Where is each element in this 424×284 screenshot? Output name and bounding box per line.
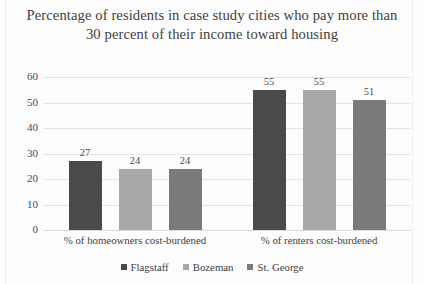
bar-value-label: 24	[180, 155, 191, 166]
bar-value-label: 24	[130, 155, 141, 166]
legend-swatch-icon	[183, 264, 189, 270]
y-axis-tick-10: 10	[10, 199, 38, 210]
bar[interactable]: 51	[353, 100, 386, 230]
y-axis-tick-30: 30	[10, 148, 38, 159]
bar[interactable]: 55	[253, 90, 286, 230]
legend-label: Flagstaff	[131, 261, 169, 273]
bar[interactable]: 24	[119, 169, 152, 230]
y-axis-tick-0: 0	[10, 224, 38, 235]
plot-area: 272424555551	[43, 77, 411, 230]
bar-value-label: 55	[264, 76, 275, 87]
y-axis-tick-50: 50	[10, 97, 38, 108]
bar-value-label: 55	[314, 76, 325, 87]
gridline-0	[43, 230, 411, 231]
chart-container: Percentage of residents in case study ci…	[0, 0, 424, 284]
bar[interactable]: 27	[69, 161, 102, 230]
chart-legend: FlagstaffBozemanSt. George	[0, 261, 424, 273]
bar-value-label: 51	[364, 86, 375, 97]
frame-border-right	[412, 0, 413, 284]
y-axis-tick-20: 20	[10, 173, 38, 184]
legend-item-bozeman[interactable]: Bozeman	[183, 261, 234, 273]
gridline-60	[43, 77, 411, 78]
y-axis-tick-60: 60	[10, 71, 38, 82]
bar[interactable]: 24	[169, 169, 202, 230]
category-label-renters: % of renters cost-burdened	[227, 234, 411, 247]
y-axis: 0102030405060	[8, 77, 38, 230]
legend-swatch-icon	[121, 264, 127, 270]
frame-border-left	[5, 0, 6, 284]
category-label-homeowners: % of homeowners cost-burdened	[43, 234, 227, 247]
legend-item-st-george[interactable]: St. George	[247, 261, 303, 273]
legend-item-flagstaff[interactable]: Flagstaff	[121, 261, 169, 273]
bar-value-label: 27	[80, 147, 91, 158]
chart-title: Percentage of residents in case study ci…	[24, 6, 400, 44]
legend-swatch-icon	[247, 264, 253, 270]
y-axis-tick-40: 40	[10, 122, 38, 133]
legend-label: St. George	[257, 261, 303, 273]
legend-label: Bozeman	[193, 261, 234, 273]
bar[interactable]: 55	[303, 90, 336, 230]
